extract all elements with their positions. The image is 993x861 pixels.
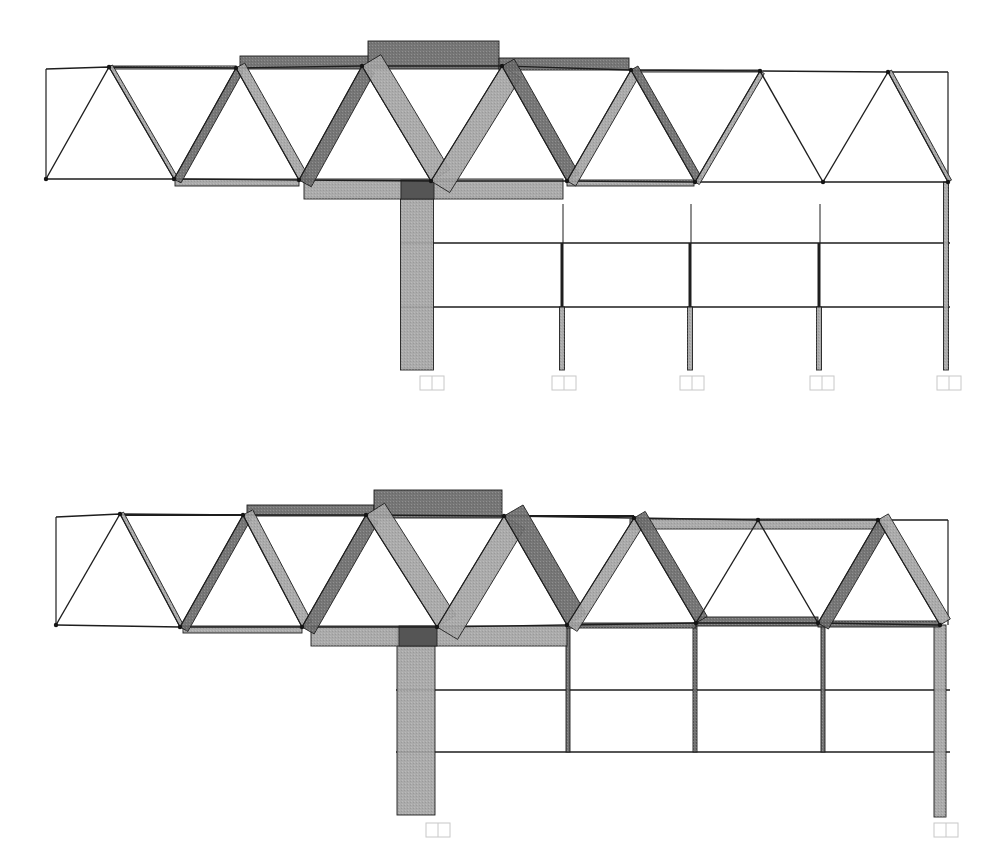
truss-joint-7 bbox=[821, 180, 825, 184]
truss-joint-2 bbox=[172, 177, 176, 181]
truss-diagonal-2-centerline bbox=[120, 514, 180, 627]
truss-diagonal-2-texture bbox=[120, 512, 184, 627]
truss-diagonal-6-texture bbox=[366, 503, 456, 627]
top-chord-band-3-texture bbox=[368, 41, 499, 69]
truss-diagonal-11 bbox=[696, 520, 758, 623]
truss-joint-8 bbox=[946, 180, 950, 184]
truss-diagonal-4-texture bbox=[243, 510, 312, 627]
truss-joint-9 bbox=[118, 512, 122, 516]
truss-diagonal-7-texture bbox=[437, 516, 525, 639]
truss-force-diagram bbox=[0, 0, 993, 861]
truss-diagonal-10-texture bbox=[631, 66, 702, 182]
frame-column-texture-7 bbox=[688, 307, 693, 370]
truss-diagonal-7-texture bbox=[431, 66, 521, 193]
support-footing-2 bbox=[552, 376, 576, 390]
truss-diagonal-8-texture bbox=[502, 59, 579, 181]
truss-diagonal-4-centerline bbox=[236, 68, 299, 180]
truss-diagonal-5-centerline bbox=[302, 515, 366, 627]
truss-joint-4 bbox=[429, 179, 433, 183]
support-footing-1 bbox=[426, 823, 450, 837]
truss-diagonal-9-centerline bbox=[567, 70, 631, 181]
truss-diagonal-9-centerline bbox=[567, 518, 634, 625]
column-chord-overlap bbox=[401, 180, 434, 199]
truss-diagram-bottom bbox=[54, 490, 958, 837]
truss-diagonal-3-centerline bbox=[180, 515, 243, 627]
bottom-chord-band-2-texture bbox=[311, 626, 567, 646]
truss-diagonal-9-texture bbox=[567, 70, 640, 186]
truss-diagonal-14-centerline bbox=[888, 72, 948, 182]
truss-joint-14 bbox=[756, 518, 760, 522]
frame-column-texture-11 bbox=[944, 182, 949, 370]
truss-diagonal-2-centerline bbox=[109, 67, 174, 179]
truss-joint-3 bbox=[297, 178, 301, 182]
truss-joint-13 bbox=[632, 516, 636, 520]
support-footing-3 bbox=[680, 376, 704, 390]
frame-column-texture-3 bbox=[693, 623, 697, 752]
truss-joint-2 bbox=[178, 625, 182, 629]
support-footing-4 bbox=[810, 376, 834, 390]
truss-diagonal-3-centerline bbox=[174, 68, 236, 179]
frame-column-texture-4 bbox=[560, 307, 565, 370]
truss-diagonal-6-texture bbox=[362, 55, 450, 181]
truss-joint-12 bbox=[502, 514, 506, 518]
truss-diagonal-14-centerline bbox=[878, 520, 940, 625]
truss-joint-13 bbox=[629, 68, 633, 72]
support-footing-5 bbox=[937, 376, 961, 390]
truss-diagonal-14-texture bbox=[888, 70, 952, 182]
frame-column-texture-4 bbox=[821, 623, 825, 752]
truss-diagonal-4-texture bbox=[236, 63, 308, 180]
truss-diagonal-12 bbox=[758, 520, 818, 623]
truss-diagonal-9-texture bbox=[567, 518, 644, 631]
top-chord-band-2-texture bbox=[247, 505, 374, 516]
truss-diagonal-5-texture bbox=[299, 66, 374, 187]
truss-diagonal-1 bbox=[46, 67, 109, 179]
truss-joint-10 bbox=[234, 66, 238, 70]
support-footing-1 bbox=[420, 376, 444, 390]
truss-joint-14 bbox=[758, 69, 762, 73]
truss-diagonal-11-centerline bbox=[695, 71, 760, 182]
truss-diagonal-13 bbox=[823, 72, 888, 182]
truss-diagonal-8-texture bbox=[504, 505, 586, 625]
bottom-chord-band-4-texture bbox=[696, 617, 818, 626]
truss-joint-8 bbox=[938, 623, 942, 627]
truss-joint-4 bbox=[435, 625, 439, 629]
truss-diagonal-2-texture bbox=[109, 65, 177, 179]
truss-joint-15 bbox=[876, 518, 880, 522]
truss-joint-5 bbox=[565, 179, 569, 183]
truss-joint-1 bbox=[54, 623, 58, 627]
truss-diagonal-12 bbox=[760, 71, 823, 182]
truss-joint-10 bbox=[241, 513, 245, 517]
truss-joint-15 bbox=[886, 70, 890, 74]
structural-diagram-canvas bbox=[0, 0, 993, 861]
truss-diagonal-1 bbox=[56, 514, 120, 625]
truss-diagonal-11-texture bbox=[695, 71, 764, 185]
truss-diagram-top bbox=[44, 41, 961, 390]
truss-joint-3 bbox=[300, 625, 304, 629]
truss-joint-7 bbox=[816, 621, 820, 625]
truss-joint-12 bbox=[500, 64, 504, 68]
frame-column-texture-10 bbox=[817, 307, 822, 370]
frame-column-texture-1 bbox=[397, 627, 435, 815]
truss-joint-1 bbox=[44, 177, 48, 181]
truss-diagonal-3-texture bbox=[174, 68, 243, 183]
truss-joint-6 bbox=[694, 621, 698, 625]
column-chord-overlap bbox=[399, 626, 437, 646]
support-footing-2 bbox=[934, 823, 958, 837]
top-chord-band-3-texture bbox=[374, 490, 502, 518]
truss-diagonal-5-texture bbox=[302, 515, 378, 634]
truss-diagonal-10-centerline bbox=[634, 518, 696, 623]
truss-diagonal-5-centerline bbox=[299, 66, 362, 180]
truss-joint-11 bbox=[360, 64, 364, 68]
truss-diagonal-8-centerline bbox=[502, 66, 567, 181]
frame-column-texture-1 bbox=[401, 180, 434, 370]
truss-joint-5 bbox=[565, 623, 569, 627]
truss-diagonal-3-texture bbox=[180, 515, 251, 631]
truss-joint-9 bbox=[107, 65, 111, 69]
truss-joint-6 bbox=[693, 180, 697, 184]
frame-column-texture-5 bbox=[934, 625, 946, 817]
truss-diagonal-13-texture bbox=[818, 520, 888, 629]
truss-joint-11 bbox=[364, 513, 368, 517]
truss-diagonal-4-centerline bbox=[243, 515, 302, 627]
truss-diagonal-14-texture bbox=[878, 514, 950, 625]
truss-diagonal-13-centerline bbox=[818, 520, 878, 623]
